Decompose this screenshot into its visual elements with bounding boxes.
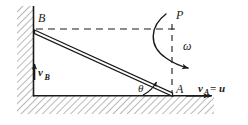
label-velocity-B: v B xyxy=(38,66,51,82)
label-velocity-A-subscript: A xyxy=(203,88,210,97)
rod-AB xyxy=(35,30,173,96)
label-theta: θ xyxy=(138,82,144,94)
label-velocity-A-equals-u: = u xyxy=(210,82,225,94)
label-velocity-B-symbol: v xyxy=(38,66,43,78)
label-omega: ω xyxy=(183,39,191,53)
ground-hatching xyxy=(17,96,214,114)
label-point-A: A xyxy=(175,82,184,96)
label-velocity-A: v A = u xyxy=(198,82,225,97)
label-velocity-B-subscript: B xyxy=(44,73,51,82)
label-point-B: B xyxy=(38,11,46,25)
physics-diagram-figure: B A P ω θ v B v A = u xyxy=(0,0,248,125)
diagram-canvas: B A P ω θ v B v A = u xyxy=(0,0,248,125)
label-point-P: P xyxy=(175,8,184,22)
label-velocity-A-symbol: v xyxy=(198,82,203,94)
